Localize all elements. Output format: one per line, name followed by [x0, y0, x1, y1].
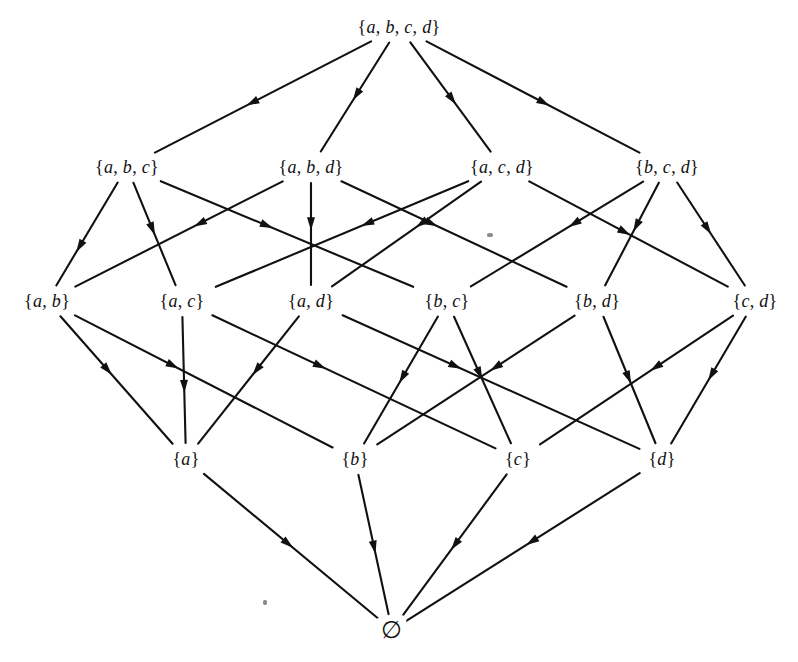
arrowhead-cd-to-c [650, 360, 663, 371]
edge-ab-to-a [60, 316, 172, 444]
paper-speck [487, 233, 493, 237]
edge-bc-to-c [454, 317, 511, 444]
arrowhead-abc-to-ac [146, 221, 155, 235]
arrowhead-abcd-to-bcd [536, 96, 549, 106]
arrowhead-abc-to-bc [259, 219, 273, 228]
node-bd: {b, d} [570, 291, 624, 311]
edges-group [56, 41, 746, 621]
node-ad: {a, d} [284, 291, 338, 311]
arrowhead-ac-to-a [180, 380, 188, 393]
lattice-edges-layer [0, 0, 798, 662]
arrowhead-bd-to-b [490, 360, 503, 370]
node-ab: {a, b} [20, 291, 74, 311]
arrowhead-acd-to-cd [617, 225, 630, 235]
node-abd: {a, b, d} [274, 157, 347, 177]
node-abcd: {a, b, c, d} [353, 17, 444, 37]
arrowhead-bcd-to-bc [569, 217, 582, 227]
edge-ab-to-b [75, 315, 333, 447]
arrowhead-ac-to-c [312, 359, 325, 368]
arrowhead-abd-to-ad [307, 217, 315, 230]
node-c: {c} [501, 449, 535, 469]
node-acd: {a, c, d} [466, 157, 538, 177]
edge-cd-to-c [540, 316, 733, 445]
node-bcd: {b, c, d} [631, 157, 703, 177]
edge-ac-to-c [212, 315, 495, 448]
arrowhead-ab-to-b [165, 359, 178, 369]
edge-bd-to-b [377, 316, 574, 445]
node-d: {d} [644, 449, 679, 469]
arrowhead-cd-to-d [708, 367, 718, 380]
arrowhead-abcd-to-abd [353, 87, 363, 100]
node-a: {a} [168, 449, 203, 469]
edge-abcd-to-bcd [427, 41, 640, 152]
node-b: {b} [337, 449, 372, 469]
arrowhead-bcd-to-bd [633, 218, 643, 231]
arrowhead-abcd-to-abc [246, 96, 259, 106]
edge-abcd-to-abc [155, 41, 371, 152]
edge-ad-to-d [343, 315, 640, 449]
arrowhead-abc-to-ab [76, 239, 86, 252]
node-bc: {b, c} [420, 291, 473, 311]
arrowhead-bd-to-d [622, 370, 631, 384]
arrowhead-ad-to-d [448, 360, 462, 369]
arrowhead-bcd-to-cd [701, 221, 711, 234]
arrowhead-bc-to-b [399, 370, 409, 383]
arrowhead-b-to-empty [369, 540, 377, 554]
arrowhead-d-to-empty [526, 535, 539, 545]
edge-bcd-to-bd [605, 183, 659, 286]
hasse-diagram: {a, b, c, d}{a, b, c}{a, b, d}{a, c, d}{… [0, 0, 798, 662]
arrowhead-acd-to-ac [361, 217, 375, 226]
paper-speck [263, 600, 267, 605]
edge-d-to-empty [405, 473, 640, 622]
edge-ad-to-a [198, 316, 299, 443]
node-empty: ∅ [377, 618, 406, 642]
edge-acd-to-ad [332, 182, 481, 287]
node-ac: {a, c} [155, 291, 208, 311]
arrowhead-abd-to-ab [194, 217, 207, 226]
node-cd: {c, d} [728, 291, 781, 311]
node-abc: {a, b, c} [91, 157, 163, 177]
